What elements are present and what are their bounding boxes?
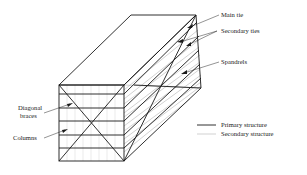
label-main-tie: Main tie (221, 11, 243, 18)
structural-diagram: Main tie Secondary ties Spandrels Diagon… (0, 0, 307, 175)
label-secondary-ties: Secondary ties (221, 27, 260, 34)
right-face-secondary-hatching (124, 30, 201, 152)
label-diagonal-braces-line1: Diagonal (18, 104, 42, 111)
legend: Primary structure Secondary structure (197, 121, 274, 137)
label-spandrels: Spandrels (221, 58, 247, 65)
legend-secondary-label: Secondary structure (221, 130, 274, 137)
top-face (59, 15, 196, 85)
label-diagonal-braces-line2: braces (20, 112, 37, 119)
annotation-leaders (44, 15, 219, 138)
front-face-diagonal-braces (59, 85, 124, 161)
front-face-spandrels (59, 94, 124, 148)
legend-primary-label: Primary structure (221, 121, 267, 128)
label-columns: Columns (13, 134, 37, 141)
